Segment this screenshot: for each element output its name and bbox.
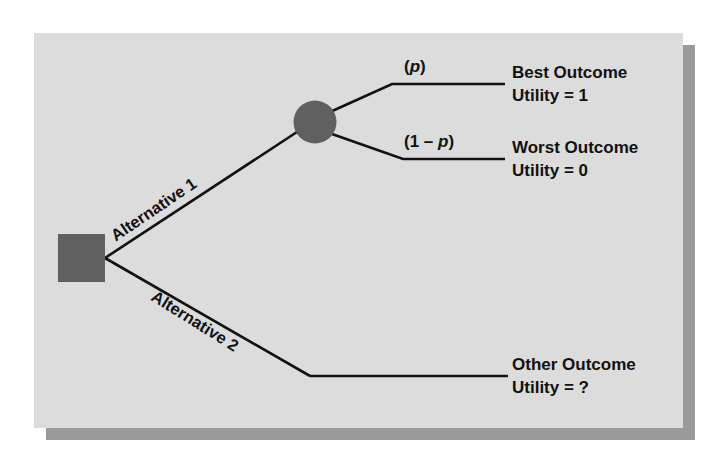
probability-p-close: ) bbox=[420, 57, 426, 76]
outcome-other: Other Outcome Utility = ? bbox=[512, 353, 636, 399]
chance-node-circle bbox=[294, 101, 337, 144]
decision-node-square bbox=[58, 234, 105, 282]
outcome-other-title: Other Outcome bbox=[512, 353, 636, 376]
probability-p-variable: p bbox=[410, 57, 420, 76]
outcome-best-title: Best Outcome bbox=[512, 61, 627, 84]
probability-label-p: (p) bbox=[404, 57, 426, 77]
figure-canvas: Alternative 1 Alternative 2 (p) (1 – p) … bbox=[0, 0, 725, 466]
outcome-other-utility: Utility = ? bbox=[512, 376, 636, 399]
probability-1p-close: ) bbox=[448, 132, 454, 151]
probability-1p-variable: p bbox=[438, 132, 448, 151]
outcome-worst-title: Worst Outcome bbox=[512, 136, 638, 159]
outcome-best: Best Outcome Utility = 1 bbox=[512, 61, 627, 107]
probability-label-one-minus-p: (1 – p) bbox=[404, 132, 454, 152]
outcome-worst-utility: Utility = 0 bbox=[512, 159, 638, 182]
branch-line-best-outcome bbox=[330, 84, 505, 112]
probability-1p-open: (1 – bbox=[404, 132, 438, 151]
outcome-best-utility: Utility = 1 bbox=[512, 84, 627, 107]
outcome-worst: Worst Outcome Utility = 0 bbox=[512, 136, 638, 182]
branch-line-alternative-1 bbox=[105, 130, 300, 258]
